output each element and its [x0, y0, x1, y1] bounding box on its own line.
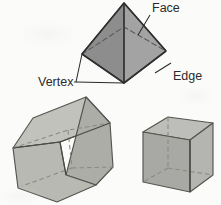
cube-left-face [143, 132, 190, 192]
edge-label: Edge [173, 69, 202, 83]
vertex-label: Vertex [38, 75, 74, 89]
vertex-leader-line-secondary [76, 82, 124, 83]
square-pyramid [82, 3, 166, 83]
pyramid-left-face [82, 3, 124, 83]
geometry-figure: Face Edge Vertex [0, 0, 221, 205]
cube [143, 117, 213, 192]
edge-leader-line [155, 63, 171, 73]
vertex-leader-line [74, 54, 82, 82]
face-label: Face [152, 1, 180, 15]
figure-canvas: Face Edge Vertex [0, 0, 221, 205]
pentagonal-prism [13, 97, 113, 202]
